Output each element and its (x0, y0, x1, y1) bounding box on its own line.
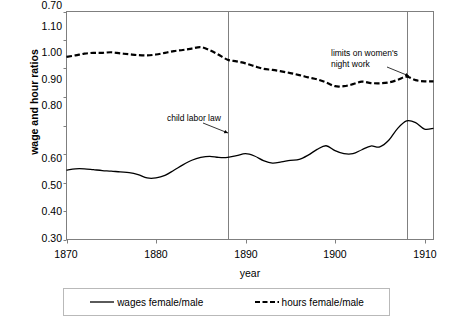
legend-swatch-dashed-icon (254, 297, 280, 307)
vertical-marker-lines (229, 12, 408, 240)
legend-entry-hours: hours female/male (254, 297, 364, 308)
annotation-text-line2: night work (331, 59, 398, 70)
legend-label: hours female/male (282, 297, 364, 308)
plot-frame (67, 12, 434, 240)
legend-entry-wages: wages female/male (89, 297, 203, 308)
annotation-text: child labor law (167, 113, 221, 123)
annotation-night-work: limits on women's night work (331, 48, 398, 69)
legend-label: wages female/male (117, 297, 203, 308)
annotation-child-labor-law: child labor law (167, 113, 221, 124)
chart-container: wage and hour ratios 1.10 1.00 0.90 0.80… (0, 0, 449, 324)
legend-swatch-solid-icon (89, 297, 115, 307)
chart-legend: wages female/male hours female/male (63, 288, 390, 316)
annotation-text-line1: limits on women's (331, 48, 398, 59)
